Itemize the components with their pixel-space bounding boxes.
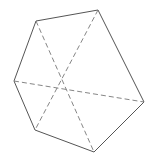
diagonal-top-right-bottom-left bbox=[35, 10, 98, 130]
hexagon-outline bbox=[14, 10, 144, 152]
diagonal-left-right bbox=[14, 81, 144, 102]
diagonal-top-left-bottom bbox=[36, 21, 94, 152]
diagonals bbox=[14, 10, 144, 152]
hexagon-diagram bbox=[0, 0, 153, 157]
